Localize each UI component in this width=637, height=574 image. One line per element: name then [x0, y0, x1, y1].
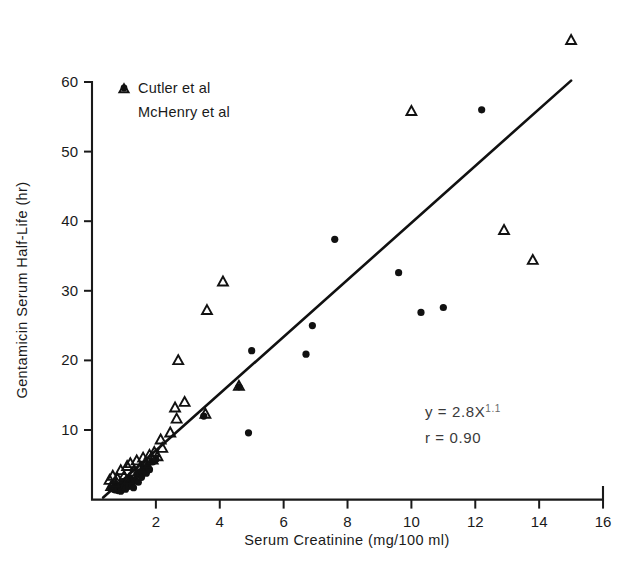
data-point-triangle	[170, 403, 180, 412]
data-point-circle	[248, 347, 255, 354]
fit-annotation: y = 2.8X1.1 r = 0.90	[425, 403, 501, 446]
equation-text: y = 2.8X1.1	[425, 403, 501, 420]
data-point-triangle	[202, 305, 212, 314]
data-point-triangle	[180, 397, 190, 406]
y-tick-label: 10	[61, 421, 78, 438]
x-axis-title: Serum Creatinine (mg/100 ml)	[244, 532, 449, 548]
data-point-triangle	[172, 414, 182, 423]
x-tick-label: 8	[343, 513, 351, 530]
legend-label-cutler: Cutler et al	[138, 80, 211, 96]
data-point-triangle	[165, 428, 175, 437]
data-point-circle	[331, 236, 338, 243]
data-point-triangle	[218, 277, 228, 286]
legend: Cutler et al McHenry et al	[119, 80, 230, 120]
x-tick-label: 6	[279, 513, 287, 530]
x-tick-label: 2	[152, 513, 160, 530]
data-point-circle	[245, 429, 252, 436]
data-point-triangle	[156, 435, 166, 444]
scatter-plot-figure: 102030405060 246810121416 Cutler et al M…	[0, 0, 637, 574]
legend-label-mchenry: McHenry et al	[138, 104, 230, 120]
data-point-circle	[302, 351, 309, 358]
data-point-circle	[440, 304, 447, 311]
x-tick-label: 10	[403, 513, 420, 530]
x-tick-label: 12	[467, 513, 484, 530]
data-point-triangle	[406, 106, 416, 115]
plot-canvas: 102030405060 246810121416 Cutler et al M…	[0, 0, 637, 574]
x-axis-ticks: 246810121416	[152, 500, 612, 530]
data-point-circle	[478, 106, 485, 113]
x-tick-label: 16	[595, 513, 612, 530]
data-point-circle	[130, 484, 137, 491]
y-axis-title: Gentamicin Serum Half-Life (hr)	[14, 181, 30, 398]
y-tick-label: 20	[61, 351, 78, 368]
data-point-triangle	[566, 35, 576, 44]
y-tick-label: 60	[61, 73, 78, 90]
y-tick-label: 40	[61, 212, 78, 229]
data-point-triangle	[528, 255, 538, 264]
data-point-circle	[417, 309, 424, 316]
data-point-triangle	[173, 355, 183, 364]
x-tick-label: 4	[216, 513, 224, 530]
data-point-circle	[309, 322, 316, 329]
y-axis-ticks: 102030405060	[61, 73, 92, 438]
x-tick-label: 14	[531, 513, 548, 530]
y-tick-label: 30	[61, 282, 78, 299]
data-point-circle	[395, 269, 402, 276]
y-tick-label: 50	[61, 143, 78, 160]
data-point-triangle	[499, 225, 509, 234]
correlation-text: r = 0.90	[425, 429, 481, 446]
